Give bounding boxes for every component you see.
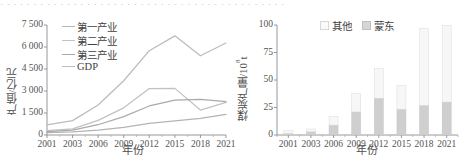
line-chart-y-tick-1500: 1 500: [0, 107, 43, 117]
bar-chart-panel: 煤炭产量/108t 年份 其他 蒙东 025507510020012003200…: [232, 9, 465, 165]
legend-label-mengdong: 蒙东: [374, 18, 394, 33]
legend-item-3: 第三产业: [62, 47, 117, 62]
legend-label-2: 第二产业: [77, 33, 117, 48]
line-chart-x-tick-2006: 2006: [84, 139, 112, 149]
bar-2003: [306, 129, 315, 135]
line-chart-x-tick-2009: 2009: [110, 139, 138, 149]
bar-2012: [374, 68, 383, 135]
bar-chart-x-tick-2021: 2021: [433, 139, 461, 149]
line-chart-y-tick-4500: 4 500: [0, 63, 43, 73]
legend-label-other: 其他: [332, 18, 352, 33]
legend-label-1: 第一产业: [77, 19, 117, 34]
bar-chart-y-tick-100: 100: [232, 19, 273, 29]
line-chart-x-tick-2015: 2015: [161, 139, 189, 149]
bar-2001: [284, 131, 293, 135]
legend-item-1: 第一产业: [62, 19, 117, 34]
page-top-cut-text: · · · · · · · · · · · · · · · · · · · · …: [0, 0, 465, 9]
legend-swatch-line-icon: [62, 40, 75, 41]
line-chart-y-tick-0: 0: [0, 129, 43, 139]
legend-item-2: 第二产业: [62, 33, 117, 48]
legend-label-3: 第三产业: [77, 47, 117, 62]
bar-chart-y-tick-0: 0: [232, 129, 273, 139]
bar-chart-y-tick-50: 50: [232, 74, 273, 84]
line-chart-x-tick-2018: 2018: [186, 139, 214, 149]
bar-2006: [329, 116, 338, 135]
legend-swatch-line-icon: [62, 54, 75, 55]
line-chart-panel: 产值/亿元 年份 第一产业第二产业第三产业GDP 01 5003 0004 50…: [0, 9, 232, 165]
line-chart-x-tick-2012: 2012: [135, 139, 163, 149]
bar-2018: [420, 28, 429, 135]
bar-2009: [352, 93, 361, 135]
bar-chart-y-tick-25: 25: [232, 102, 273, 112]
legend-swatch-mengdong-icon: [362, 21, 371, 30]
bar-2015: [397, 86, 406, 136]
line-chart-y-axis-title: 产值/亿元: [4, 43, 20, 115]
legend-label-4: GDP: [77, 61, 98, 72]
legend-item-other: 其他: [320, 18, 352, 33]
legend-swatch-line-icon: [62, 66, 75, 67]
bar-2021: [442, 26, 451, 135]
legend-item-mengdong: 蒙东: [362, 18, 394, 33]
figure-root: · · · · · · · · · · · · · · · · · · · · …: [0, 0, 465, 165]
legend-swatch-other-icon: [320, 21, 329, 30]
line-chart-y-tick-6000: 6 000: [0, 41, 43, 51]
bar-chart-y-tick-75: 75: [232, 47, 273, 57]
line-chart-y-tick-3000: 3 000: [0, 85, 43, 95]
line-chart-x-tick-2001: 2001: [33, 139, 61, 149]
line-chart-y-tick-7500: 7 500: [0, 19, 43, 29]
legend-item-4: GDP: [62, 61, 98, 72]
legend-swatch-line-icon: [62, 26, 75, 27]
line-chart-x-tick-2003: 2003: [59, 139, 87, 149]
